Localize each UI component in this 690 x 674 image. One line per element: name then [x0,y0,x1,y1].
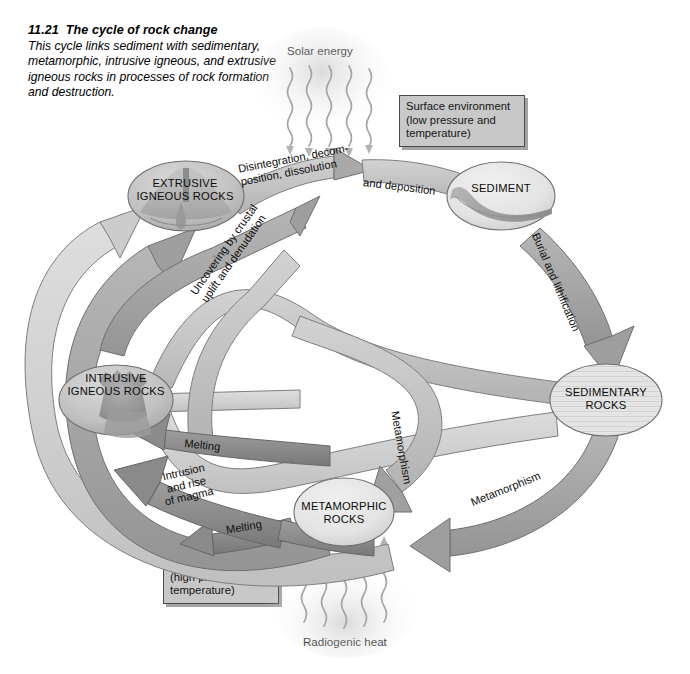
node-sediment[interactable] [447,162,555,230]
arrow-intrusive-horizontal-bar [152,390,300,412]
arrow-burial-lithification [520,228,612,346]
arrow-metamorphism-sed-head [410,518,450,572]
node-metamorphic-rocks[interactable] [294,478,394,546]
node-extrusive-igneous-rocks[interactable] [128,161,244,231]
solar-glow [250,28,394,152]
arrow-uncovering-second-strand [188,250,300,448]
rock-cycle-diagram [0,0,690,674]
node-sedimentary-rocks[interactable] [550,364,662,436]
